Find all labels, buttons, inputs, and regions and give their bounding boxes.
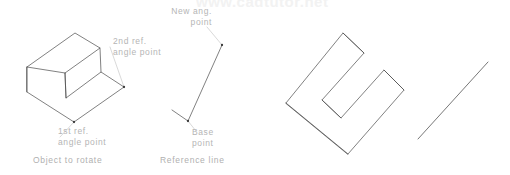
caption-object-to-rotate: Object to rotate	[33, 155, 102, 165]
technical-drawing	[0, 0, 510, 175]
object-to-rotate-shape	[27, 33, 124, 122]
reference-line-leader-lines	[188, 27, 222, 131]
label-base-point: Base point	[192, 127, 214, 148]
label-second-ref-angle-point: 2nd ref. angle point	[113, 36, 161, 57]
rotated-object-shape	[286, 33, 404, 154]
label-new-angle-point: New ang. point	[150, 6, 212, 27]
diagram-canvas: www.cadtutor.net	[0, 0, 510, 175]
label-first-ref-angle-point: 1st ref. angle point	[58, 126, 106, 147]
reference-line-shape	[172, 45, 222, 121]
object-leader-lines	[60, 47, 124, 137]
result-line-shape	[418, 62, 488, 139]
caption-reference-line: Reference line	[160, 155, 225, 165]
